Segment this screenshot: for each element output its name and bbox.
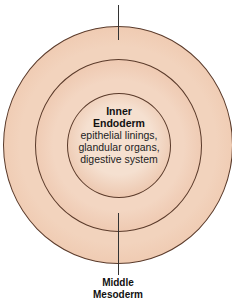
endoderm-title-line1: Inner: [67, 105, 171, 117]
mesoderm-title-line1: Middle: [68, 277, 168, 289]
mesoderm-leader-line: [118, 213, 119, 275]
endoderm-desc-line: digestive system: [67, 153, 171, 165]
top-leader-line: [118, 5, 119, 40]
mesoderm-label: Middle Mesoderm: [68, 277, 168, 301]
mesoderm-title-line2: Mesoderm: [68, 289, 168, 301]
endoderm-desc-line: glandular organs,: [67, 141, 171, 153]
endoderm-label: Inner Endoderm epithelial linings, gland…: [67, 105, 171, 165]
endoderm-title-line2: Endoderm: [67, 117, 171, 129]
endoderm-desc-line: epithelial linings,: [67, 129, 171, 141]
